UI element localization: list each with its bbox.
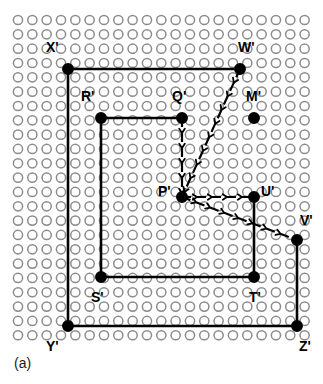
lattice-site: [286, 15, 295, 24]
lattice-site: [157, 245, 166, 254]
lattice-site: [142, 173, 151, 182]
lattice-site: [128, 302, 137, 311]
lattice-site: [271, 173, 280, 182]
lattice-site: [142, 245, 151, 254]
vertex-label-r: R': [81, 89, 94, 103]
vertex-label-s: S': [91, 290, 104, 304]
lattice-site: [200, 187, 209, 196]
lattice-site: [13, 15, 22, 24]
lattice-site: [228, 259, 237, 268]
lattice-site: [214, 130, 223, 139]
lattice-site: [300, 173, 309, 182]
lattice-site: [271, 130, 280, 139]
lattice-site: [171, 15, 180, 24]
lattice-site: [286, 159, 295, 168]
lattice-site: [185, 130, 194, 139]
lattice-site: [157, 87, 166, 96]
lattice-site: [200, 15, 209, 24]
lattice-site: [56, 259, 65, 268]
lattice-site: [28, 288, 37, 297]
lattice-site: [56, 30, 65, 39]
lattice-site: [85, 116, 94, 125]
lattice-site: [214, 73, 223, 82]
lattice-site: [214, 44, 223, 53]
lattice-site: [28, 130, 37, 139]
arrow-W-P-head: [208, 132, 213, 137]
lattice-site: [200, 73, 209, 82]
lattice-site: [85, 230, 94, 239]
lattice-site: [286, 30, 295, 39]
lattice-site: [243, 159, 252, 168]
lattice-site: [157, 159, 166, 168]
lattice-site: [85, 187, 94, 196]
lattice-site: [214, 245, 223, 254]
lattice-site: [142, 202, 151, 211]
lattice-site: [228, 159, 237, 168]
lattice-site: [85, 73, 94, 82]
lattice-site: [228, 302, 237, 311]
lattice-site: [271, 87, 280, 96]
lattice-site: [71, 187, 80, 196]
lattice-site: [28, 144, 37, 153]
lattice-site: [13, 101, 22, 110]
lattice-site: [185, 30, 194, 39]
vertex-dot-p: [177, 192, 187, 202]
lattice-site: [56, 159, 65, 168]
lattice-site: [228, 202, 237, 211]
lattice-site: [71, 144, 80, 153]
lattice-site: [243, 230, 252, 239]
lattice-site: [85, 216, 94, 225]
lattice-site: [185, 288, 194, 297]
lattice-site: [56, 187, 65, 196]
lattice-site: [257, 15, 266, 24]
lattice-site: [56, 288, 65, 297]
lattice-site: [300, 302, 309, 311]
lattice-site: [271, 116, 280, 125]
lattice-site: [286, 87, 295, 96]
lattice-site: [157, 101, 166, 110]
lattice-site: [200, 173, 209, 182]
lattice-site: [56, 273, 65, 282]
lattice-site: [28, 159, 37, 168]
lattice-site: [28, 331, 37, 340]
lattice-site: [228, 15, 237, 24]
lattice-site: [300, 15, 309, 24]
lattice-site: [142, 101, 151, 110]
lattice-site: [214, 259, 223, 268]
lattice-site: [214, 288, 223, 297]
lattice-site: [71, 288, 80, 297]
lattice-site: [157, 259, 166, 268]
lattice-site: [171, 130, 180, 139]
lattice-site: [56, 216, 65, 225]
lattice-site: [185, 302, 194, 311]
lattice-site: [71, 116, 80, 125]
lattice-site: [128, 15, 137, 24]
lattice-site: [142, 58, 151, 67]
lattice-site: [42, 273, 51, 282]
lattice-site: [286, 288, 295, 297]
lattice-site: [42, 73, 51, 82]
lattice-site: [13, 273, 22, 282]
lattice-site: [157, 44, 166, 53]
lattice-site: [85, 58, 94, 67]
lattice-site: [56, 15, 65, 24]
lattice-site: [300, 202, 309, 211]
lattice-site: [142, 15, 151, 24]
lattice-site: [185, 101, 194, 110]
vertex-label-z: Z': [299, 339, 311, 353]
lattice-site: [243, 259, 252, 268]
lattice-site: [286, 273, 295, 282]
lattice-site: [157, 202, 166, 211]
lattice-site: [171, 144, 180, 153]
lattice-site: [142, 316, 151, 325]
lattice-site: [214, 302, 223, 311]
lattice-site: [300, 273, 309, 282]
lattice-site: [128, 159, 137, 168]
lattice-site: [142, 44, 151, 53]
lattice-site: [114, 187, 123, 196]
lattice-site: [171, 331, 180, 340]
lattice-site: [128, 331, 137, 340]
lattice-site: [85, 159, 94, 168]
lattice-site: [56, 101, 65, 110]
vertex-dot-y: [63, 321, 73, 331]
